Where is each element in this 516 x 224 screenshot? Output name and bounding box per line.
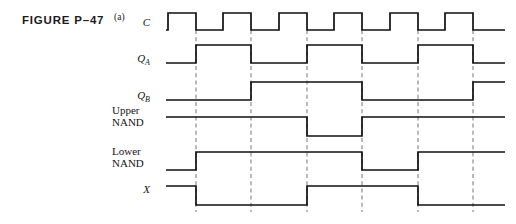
signal-label-upper-nand: Upper <box>112 104 140 116</box>
waveform-q-a <box>166 45 505 63</box>
signal-label-q-a: QA <box>137 52 150 67</box>
figure-page: FIGURE P–47 (a) CQAQBUpperNANDLowerNANDX <box>0 0 516 224</box>
signal-label-subscript-q-b: B <box>145 95 150 104</box>
timing-diagram: CQAQBUpperNANDLowerNANDX <box>0 0 516 224</box>
waveform-lower-nand <box>166 152 505 170</box>
signal-label-x-output: X <box>142 183 151 195</box>
signal-label-lower-nand-line2: NAND <box>112 157 144 169</box>
signal-labels-group: CQAQBUpperNANDLowerNANDX <box>112 16 151 195</box>
waveform-clock <box>166 13 505 30</box>
signal-label-subscript-q-a: A <box>144 58 150 67</box>
waveforms-group <box>166 13 505 205</box>
signal-label-upper-nand-line2: NAND <box>112 116 144 128</box>
waveform-q-b <box>166 82 505 100</box>
guide-lines-group <box>196 30 473 212</box>
waveform-upper-nand <box>166 117 505 136</box>
signal-label-lower-nand: Lower <box>112 145 141 157</box>
signal-label-q-b: QB <box>137 89 150 104</box>
waveform-x-output <box>166 186 505 205</box>
signal-label-clock: C <box>143 16 151 28</box>
